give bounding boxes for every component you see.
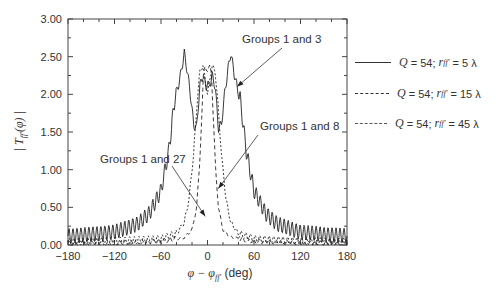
- annotation-arrow: [237, 48, 282, 87]
- y-axis-label: | Tff′(φ) |: [12, 91, 28, 171]
- dashed-line-swatch: [355, 123, 387, 124]
- solid-line-swatch: [355, 62, 391, 63]
- arrowhead-icon: [200, 210, 206, 217]
- series-line-solid: [68, 49, 347, 243]
- x-tick-label: 60: [248, 250, 260, 262]
- annotation-label: Groups 1 and 27: [100, 153, 186, 165]
- x-tick-label: 180: [338, 250, 356, 262]
- legend-item-45-lambda: Q = 54; rff′ = 45 λ: [355, 116, 479, 131]
- y-tick-label: 2.50: [41, 51, 62, 63]
- x-tick-label: 120: [291, 250, 309, 262]
- y-tick-label: 2.00: [41, 88, 62, 100]
- y-tick-label: 1.00: [41, 164, 62, 176]
- annotation-label: Groups 1 and 8: [260, 120, 339, 132]
- x-tick-label: −120: [102, 250, 127, 262]
- plot-frame: [68, 19, 347, 245]
- dotted-line-swatch: [355, 93, 389, 94]
- x-axis-label: φ − φff′ (deg): [150, 266, 290, 282]
- x-tick-label: −60: [152, 250, 171, 262]
- x-tick-label: 0: [204, 250, 210, 262]
- legend-item-15-lambda: Q = 54; rff′ = 15 λ: [355, 86, 481, 101]
- y-tick-label: 3.00: [41, 13, 62, 25]
- legend-item-5-lambda: Q = 54; rff′ = 5 λ: [355, 55, 477, 70]
- annotation-arrow: [172, 166, 205, 216]
- chart: −180−120−600601201800.000.501.001.502.00…: [0, 0, 498, 293]
- x-tick-label: −180: [56, 250, 81, 262]
- arrowhead-icon: [218, 182, 224, 189]
- annotation-label: Groups 1 and 3: [242, 33, 321, 45]
- y-tick-label: 0.00: [41, 239, 62, 251]
- y-tick-label: 1.50: [41, 126, 62, 138]
- annotation-arrow: [218, 135, 258, 189]
- y-tick-label: 0.50: [41, 201, 62, 213]
